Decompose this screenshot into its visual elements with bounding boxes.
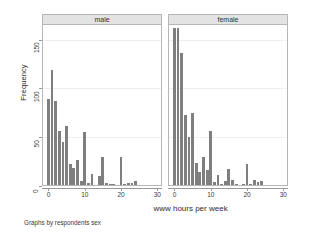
bar: [76, 160, 79, 185]
bar: [109, 184, 112, 185]
bar: [87, 183, 90, 185]
bar: [65, 126, 68, 185]
bar: [191, 113, 194, 185]
x-tick-label: 20: [243, 192, 250, 199]
plot-area-male: [42, 25, 162, 186]
bar: [231, 180, 234, 185]
bar: [206, 170, 209, 185]
y-tick-line: [39, 186, 42, 187]
bar: [202, 157, 205, 185]
bar: [213, 182, 216, 185]
x-axis-male: 0102030: [42, 188, 162, 202]
bar: [180, 53, 183, 185]
bar: [91, 174, 94, 185]
bar: [62, 142, 65, 185]
x-tick-label: 0: [173, 192, 177, 199]
bar: [177, 28, 180, 185]
bar: [123, 184, 126, 185]
bar: [188, 137, 191, 185]
bar: [260, 181, 263, 185]
x-axis-line: [168, 188, 288, 189]
y-tick-label: 50: [34, 140, 41, 147]
bar: [101, 157, 104, 185]
y-axis: 050100150: [24, 22, 42, 182]
histogram-figure: Frequency 050100150 male female 0102030 …: [0, 0, 321, 236]
bar: [224, 181, 227, 185]
x-tick-label: 0: [47, 192, 51, 199]
bar: [47, 99, 50, 185]
y-tick-label: 0: [34, 189, 41, 193]
bar: [127, 183, 130, 185]
plot-area-female: [168, 25, 288, 186]
panel-male: male: [42, 14, 162, 186]
bar: [184, 115, 187, 185]
bar: [98, 176, 101, 185]
bar: [80, 181, 83, 185]
bar-series-male: [43, 25, 161, 185]
bar: [173, 28, 176, 185]
bar: [257, 182, 260, 185]
bar: [54, 101, 57, 185]
bar: [220, 184, 223, 185]
bar-series-female: [169, 25, 287, 185]
x-tick-label: 30: [154, 192, 161, 199]
bar: [227, 169, 230, 185]
figure-footnote: Graphs by respondents sex: [24, 219, 101, 226]
bar: [253, 180, 256, 185]
bar: [69, 164, 72, 185]
panel-header-female: female: [168, 14, 288, 25]
y-tick-label: 150: [34, 42, 41, 53]
bar: [58, 131, 61, 185]
bar: [246, 164, 249, 185]
bar: [131, 183, 134, 185]
x-tick-label: 20: [117, 192, 124, 199]
bar: [249, 184, 252, 185]
x-axis-female: 0102030: [168, 188, 288, 202]
panel-female: female: [168, 14, 288, 186]
x-tick-label: 10: [207, 192, 214, 199]
bar: [242, 184, 245, 185]
x-tick-label: 10: [81, 192, 88, 199]
bar: [105, 183, 108, 185]
bar: [83, 132, 86, 185]
bar: [198, 172, 201, 185]
bar: [134, 181, 137, 185]
bar: [217, 175, 220, 185]
bar: [209, 131, 212, 185]
bar: [195, 163, 198, 185]
x-tick-label: 30: [280, 192, 287, 199]
x-axis-line: [42, 188, 162, 189]
bar: [120, 157, 123, 185]
bar: [72, 168, 75, 185]
bar: [51, 70, 54, 185]
x-axis-title: www hours per week: [0, 204, 321, 213]
y-tick-label: 100: [34, 91, 41, 102]
bar: [112, 184, 115, 185]
bar: [235, 184, 238, 185]
panel-header-male: male: [42, 14, 162, 25]
